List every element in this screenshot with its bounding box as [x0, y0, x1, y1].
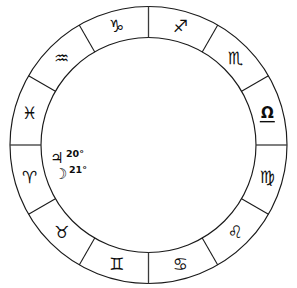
- zodiac-glyph-aquarius: ♒: [54, 48, 69, 68]
- zodiac-glyph-aries: ♈: [22, 167, 37, 187]
- zodiac-glyph-capricorn: ♑: [109, 16, 124, 36]
- zodiac-glyph-taurus: ♉: [54, 222, 69, 242]
- zodiac-glyph-gemini: ♊: [109, 254, 124, 274]
- zodiac-glyph-leo: ♌: [228, 222, 243, 242]
- zodiac-glyph-cancer: ♋: [173, 254, 188, 274]
- planet-glyph-moon: ☽: [54, 165, 67, 183]
- zodiac-glyph-libra: Ω: [261, 104, 274, 122]
- zodiac-glyph-virgo: ♍: [260, 167, 275, 187]
- astrology-chart-wheel: ♈♉♊♋♌♍Ω♏♐♑♒♓ ♃20°☽21°: [0, 0, 297, 288]
- planet-degree-jupiter: 20°: [66, 148, 84, 159]
- zodiac-glyph-scorpio: ♏: [228, 48, 243, 68]
- zodiac-glyph-sagittarius: ♐: [173, 16, 188, 36]
- planet-degree-moon: 21°: [69, 164, 87, 175]
- zodiac-glyph-pisces: ♓: [22, 103, 37, 123]
- inner-circle: [41, 38, 256, 253]
- chart-wheel-svg: ♈♉♊♋♌♍Ω♏♐♑♒♓ ♃20°☽21°: [0, 0, 297, 288]
